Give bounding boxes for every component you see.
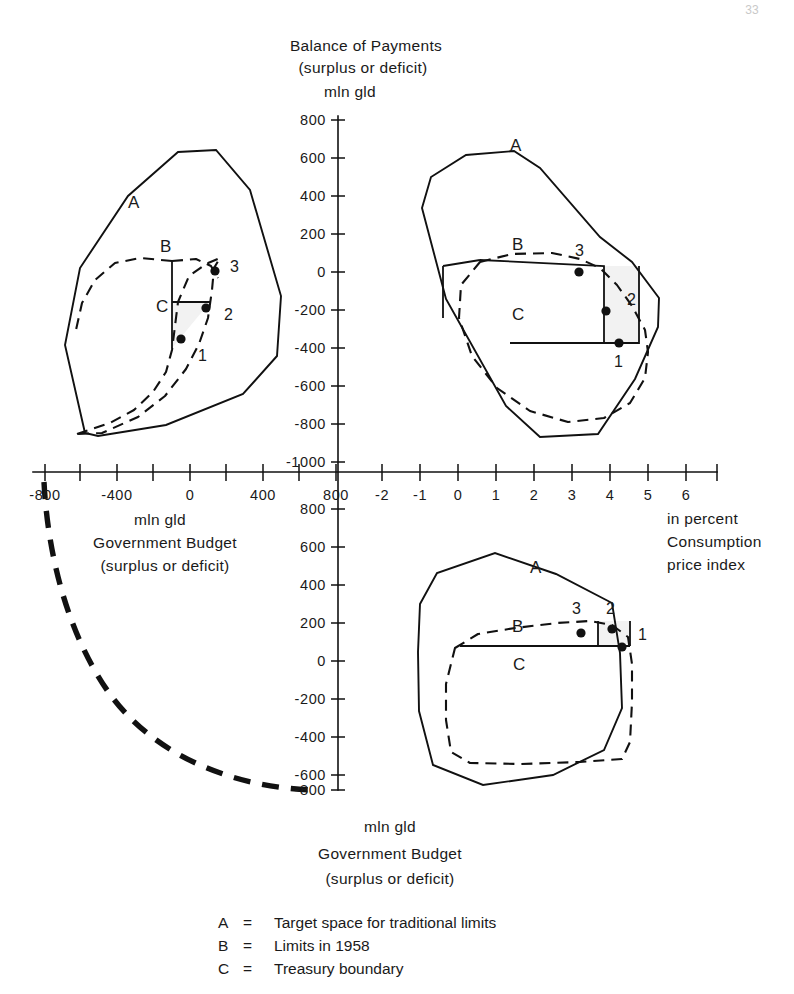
legend-key: C (218, 960, 229, 977)
region-label-b-bottom-right: B (512, 617, 523, 636)
region-a-top-left (65, 150, 281, 436)
x-tick-label: 800 (323, 487, 349, 503)
region-label-a-top-left: A (128, 193, 140, 212)
region-label-c-bottom-right: C (513, 655, 525, 674)
legend: A = Target space for traditional limits … (218, 914, 497, 977)
data-point-2-bottom-right (607, 624, 616, 633)
region-b-top-left (77, 258, 220, 434)
x-tick-label: 4 (606, 487, 615, 503)
y-tick-label: 200 (300, 226, 326, 242)
point-label-1-top-right: 1 (614, 353, 623, 370)
x-tick-label: 1 (492, 487, 501, 503)
bottom-axis-title-line2: Government Budget (318, 845, 462, 862)
legend-row: A = Target space for traditional limits (218, 914, 497, 931)
region-label-c-top-left: C (156, 297, 168, 316)
data-point-3-bottom-right (576, 628, 585, 637)
y-tick-label: 600 (300, 150, 326, 166)
data-point-1-top-right (614, 338, 623, 347)
legend-label: Target space for traditional limits (274, 914, 497, 931)
x-tick-label: 3 (568, 487, 577, 503)
region-label-b-top-right: B (512, 235, 523, 254)
y-tick-label: 600 (300, 539, 326, 555)
y-tick-label: -1000 (286, 454, 326, 470)
y-tick-label: 800 (300, 112, 326, 128)
y-tick-label: 400 (300, 577, 326, 593)
x-tick-label: -800 (29, 487, 60, 503)
point-label-3-top-left: 3 (230, 258, 239, 275)
right-axis-title-line1: in percent (667, 510, 738, 527)
y-tick-label: -200 (295, 691, 326, 707)
shaded-region-bottom-right (598, 621, 630, 646)
left-axis-title-line2: Government Budget (93, 534, 237, 551)
x-tick-label: -400 (101, 487, 132, 503)
bottom-axis-title-line3: (surplus or deficit) (325, 870, 454, 887)
legend-row: C = Treasury boundary (218, 960, 404, 977)
legend-row: B = Limits in 1958 (218, 937, 370, 954)
left-bottom-axis-title: mln gld Government Budget (surplus or de… (93, 511, 237, 574)
region-label-c-top-right: C (512, 305, 524, 324)
panel-bottom-left (44, 482, 318, 790)
panel-top-right: A B C 1 2 3 (422, 136, 659, 437)
legend-equals: = (243, 960, 252, 977)
left-axis-title-line3: (surplus or deficit) (100, 557, 229, 574)
data-point-2-top-left (201, 303, 210, 312)
y-tick-label: 400 (300, 188, 326, 204)
right-axis-title-line3: price index (667, 556, 745, 573)
y-tick-label: -400 (295, 340, 326, 356)
identity-boundary-curve (44, 482, 318, 790)
vertical-axis-title-line2: (surplus or deficit) (298, 59, 427, 76)
legend-equals: = (243, 914, 252, 931)
data-point-3-top-left (210, 266, 219, 275)
region-label-a-top-right: A (510, 136, 522, 155)
y-tick-labels-top: 800 600 400 200 0 -200 -400 -600 -800 -1… (286, 112, 326, 470)
y-tick-label: -400 (295, 729, 326, 745)
legend-label: Limits in 1958 (274, 937, 370, 954)
x-tick-labels-right: -2 -1 0 1 2 3 4 5 6 (375, 487, 690, 503)
vertical-axis-title-line1: Balance of Payments (290, 37, 442, 54)
data-point-2-top-right (601, 306, 610, 315)
y-tick-label: -800 (295, 782, 326, 798)
region-label-b-top-left: B (160, 237, 171, 256)
point-label-3-bottom-right: 3 (572, 600, 581, 617)
y-tick-label: 0 (317, 653, 326, 669)
x-tick-label: 0 (454, 487, 463, 503)
right-bottom-axis-title: in percent Consumption price index (667, 510, 762, 573)
vertical-axis-title: Balance of Payments (surplus or deficit)… (290, 37, 442, 100)
data-point-1-top-left (176, 334, 185, 343)
bottom-axis-title: mln gld Government Budget (surplus or de… (318, 818, 462, 887)
point-label-1-bottom-right: 1 (638, 626, 647, 643)
left-axis-title-line1: mln gld (134, 511, 186, 528)
data-point-3-top-right (574, 267, 583, 276)
legend-label: Treasury boundary (274, 960, 404, 977)
y-tick-label: -200 (295, 302, 326, 318)
y-tick-label: 0 (317, 264, 326, 280)
legend-key: A (218, 914, 229, 931)
point-label-3-top-right: 3 (575, 242, 584, 259)
y-tick-label: 200 (300, 615, 326, 631)
bottom-axis-title-line1: mln gld (364, 818, 416, 835)
point-label-2-top-right: 2 (627, 291, 636, 308)
x-tick-label: -2 (375, 487, 389, 503)
region-b-top-left-arc (76, 258, 172, 330)
vertical-axis-title-line3: mln gld (324, 83, 376, 100)
x-tick-label: 6 (682, 487, 691, 503)
x-tick-label: 5 (644, 487, 653, 503)
right-axis-title-line2: Consumption (667, 533, 762, 550)
x-tick-label: 0 (186, 487, 195, 503)
point-label-1-top-left: 1 (198, 347, 207, 364)
four-quadrant-chart: A B C 1 2 3 A B C (0, 0, 794, 994)
point-label-2-top-left: 2 (224, 306, 233, 323)
y-tick-labels-bottom: 800 600 400 200 0 -200 -400 -600 -800 (295, 501, 326, 798)
figure-root: A B C 1 2 3 A B C (0, 0, 794, 994)
page-number: 33 (745, 3, 759, 17)
legend-key: B (218, 937, 228, 954)
data-point-1-bottom-right (617, 642, 626, 651)
x-tick-label: 400 (250, 487, 276, 503)
y-tick-label: 800 (300, 501, 326, 517)
panel-bottom-right: A B C 1 2 3 (418, 553, 647, 785)
axis-group (33, 116, 717, 790)
y-tick-label: -600 (295, 767, 326, 783)
y-tick-label: -800 (295, 416, 326, 432)
legend-equals: = (243, 937, 252, 954)
panel-top-left: A B C 1 2 3 (65, 150, 281, 436)
